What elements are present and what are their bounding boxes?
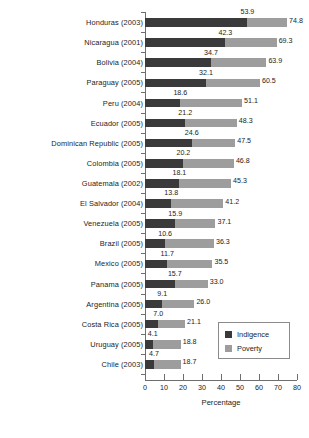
value-label-indigence: 21.2 [178, 109, 192, 117]
chart-legend: Indigence Poverty [218, 322, 290, 359]
x-axis-tick-label: 30 [198, 383, 206, 392]
bar-group [145, 159, 234, 168]
value-label-poverty: 46.8 [236, 157, 250, 165]
bar-group [145, 280, 208, 289]
bar-group [145, 340, 181, 349]
value-label-poverty: 26.0 [196, 298, 210, 306]
category-label: Uruguay (2005) [90, 339, 143, 348]
bar-segment-indigence [145, 300, 162, 309]
value-label-indigence: 42.3 [218, 29, 232, 37]
bar-segment-poverty [175, 219, 215, 228]
value-label-poverty: 35.5 [214, 258, 228, 266]
bar-row: Venezuela (2005)37.115.9 [0, 213, 309, 233]
x-axis-tick [164, 374, 165, 380]
bar-segment-poverty [211, 58, 266, 67]
value-label-poverty: 21.1 [187, 318, 201, 326]
bar-row: Nicaragua (2001)69.342.3 [0, 32, 309, 52]
value-label-indigence: 53.9 [241, 8, 255, 16]
bar-group [145, 199, 223, 208]
value-label-indigence: 10.6 [158, 230, 172, 238]
x-axis-tick-label: 60 [255, 383, 263, 392]
bar-row: Honduras (2003)74.853.9 [0, 12, 309, 32]
bar-segment-indigence [145, 58, 211, 67]
bar-row: Ecuador (2005)48.321.2 [0, 113, 309, 133]
value-label-indigence: 11.7 [161, 250, 174, 258]
x-axis-tick [278, 374, 279, 380]
category-label: Guatemala (2002) [82, 178, 143, 187]
bar-group [145, 38, 277, 47]
bar-segment-poverty [153, 340, 181, 349]
bar-group [145, 119, 237, 128]
bar-segment-poverty [154, 360, 181, 369]
legend-item-indigence: Indigence [225, 327, 289, 341]
x-axis-tick [145, 374, 146, 380]
bar-group [145, 300, 194, 309]
bar-group [145, 360, 181, 369]
category-label: Bolivia (2004) [96, 58, 143, 67]
bar-row: Brazil (2005)36.310.6 [0, 233, 309, 253]
bar-row: Peru (2004)51.118.6 [0, 92, 309, 112]
bar-group [145, 320, 185, 329]
bar-segment-poverty [247, 18, 287, 27]
x-axis-tick-label: 10 [160, 383, 168, 392]
bar-segment-indigence [145, 38, 225, 47]
value-label-indigence: 24.6 [185, 129, 199, 137]
bar-segment-poverty [183, 159, 234, 168]
x-axis-tick [221, 374, 222, 380]
bar-row: Panama (2005)33.015.7 [0, 273, 309, 293]
value-label-poverty: 51.1 [244, 97, 258, 105]
value-label-poverty: 45.3 [233, 177, 247, 185]
category-label: Costa Rica (2005) [82, 319, 143, 328]
bar-segment-indigence [145, 139, 192, 148]
value-label-indigence: 32.1 [199, 69, 213, 77]
x-axis-tick-label: 40 [217, 383, 225, 392]
value-label-poverty: 18.8 [183, 338, 197, 346]
bar-group [145, 179, 231, 188]
category-label: Dominican Republic (2005) [51, 138, 143, 147]
plot-area: Honduras (2003)74.853.9Nicaragua (2001)6… [0, 12, 309, 374]
bar-segment-poverty [179, 179, 231, 188]
bar-segment-poverty [192, 139, 236, 148]
value-label-indigence: 15.9 [168, 210, 182, 218]
value-label-poverty: 36.3 [216, 238, 230, 246]
bar-segment-poverty [225, 38, 276, 47]
category-label: Brazil (2005) [100, 239, 143, 248]
bar-segment-indigence [145, 239, 165, 248]
value-label-poverty: 37.1 [217, 218, 231, 226]
bar-segment-poverty [162, 300, 194, 309]
x-axis-line [145, 380, 297, 381]
value-label-indigence: 4.1 [148, 330, 158, 338]
x-axis-tick-label: 20 [179, 383, 187, 392]
bar-segment-indigence [145, 199, 171, 208]
bar-row: Dominican Republic (2005)47.524.6 [0, 133, 309, 153]
x-axis-tick-label: 50 [236, 383, 244, 392]
value-label-poverty: 41.2 [225, 198, 239, 206]
bar-segment-poverty [171, 199, 223, 208]
bar-segment-indigence [145, 360, 154, 369]
legend-item-poverty: Poverty [225, 341, 289, 355]
category-label: Nicaragua (2001) [84, 38, 143, 47]
value-label-poverty: 74.8 [289, 17, 303, 25]
bar-segment-poverty [158, 320, 185, 329]
value-label-indigence: 9.1 [157, 290, 167, 298]
bar-group [145, 79, 260, 88]
bar-row: Paraguay (2005)60.532.1 [0, 72, 309, 92]
bar-group [145, 239, 214, 248]
bar-row: Guatemala (2002)45.318.1 [0, 173, 309, 193]
category-label: Paraguay (2005) [86, 78, 143, 87]
bar-segment-indigence [145, 280, 175, 289]
legend-swatch-poverty [225, 345, 232, 352]
category-label: Peru (2004) [103, 98, 143, 107]
bar-group [145, 99, 242, 108]
x-axis-tick-label: 80 [293, 383, 301, 392]
bar-row: El Salvador (2004)41.213.8 [0, 193, 309, 213]
category-label: Argentina (2005) [86, 299, 143, 308]
value-label-poverty: 18.7 [183, 358, 197, 366]
value-label-indigence: 18.6 [173, 89, 187, 97]
bar-group [145, 219, 215, 228]
value-label-indigence: 15.7 [168, 270, 182, 278]
bar-segment-indigence [145, 119, 185, 128]
bar-segment-indigence [145, 320, 158, 329]
bar-group [145, 18, 287, 27]
x-axis-tick [183, 374, 184, 380]
